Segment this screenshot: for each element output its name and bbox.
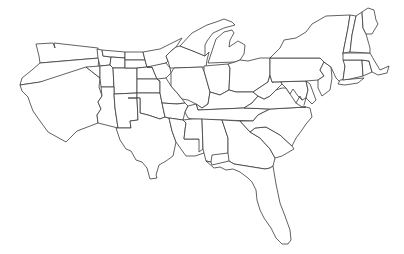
us-map xyxy=(0,0,404,254)
state-florida xyxy=(206,161,291,244)
state-connecticut xyxy=(343,60,363,80)
state-delaware xyxy=(306,81,316,104)
state-south-dakota xyxy=(125,60,147,68)
us-map-svg xyxy=(0,0,404,254)
state-kansas xyxy=(137,79,160,93)
state-north-dakota xyxy=(125,52,145,60)
state-michigan xyxy=(208,30,245,63)
state-arkansas xyxy=(162,103,188,120)
state-colorado xyxy=(113,68,137,94)
state-wyoming xyxy=(110,57,125,68)
state-utah xyxy=(100,65,114,87)
state-maine xyxy=(362,8,378,34)
state-pennsylvania xyxy=(270,58,324,82)
